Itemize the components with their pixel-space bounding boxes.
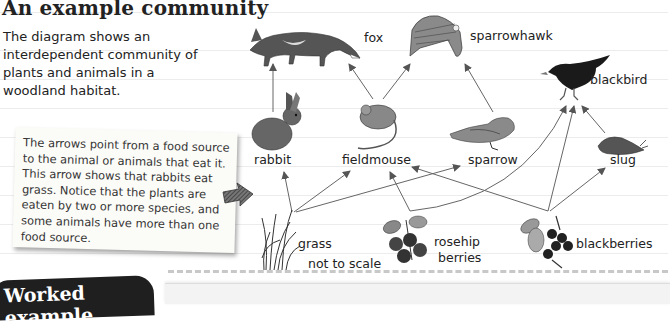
sparrowhawk-illustration [410, 16, 462, 57]
label-rabbit: rabbit [254, 152, 291, 167]
arrow-blackberries-slug [550, 168, 605, 211]
label-grass: grass [298, 236, 332, 251]
label-rosehip: rosehip [434, 234, 480, 249]
arrow-fieldmouse-sparrowhawk [383, 64, 410, 99]
fieldmouse-illustration [358, 105, 396, 149]
fox-illustration [250, 28, 360, 66]
section-divider [168, 270, 668, 273]
blackberries-illustration [518, 216, 573, 268]
grass-illustration [262, 210, 300, 270]
arrow-grass-sparrow [296, 166, 460, 212]
arrow-grass-fieldmouse [294, 171, 350, 212]
label-fieldmouse: fieldmouse [342, 152, 411, 167]
next-section-panel [165, 283, 670, 304]
worked-example-tab: Worked example [0, 275, 155, 321]
label-blackbird: blackbird [590, 72, 647, 87]
worked-example-heading: Worked example [3, 279, 154, 325]
label-blackberries: blackberries [576, 236, 653, 251]
rabbit-illustration [252, 92, 301, 150]
sparrow-illustration [450, 118, 514, 150]
arrow-rosehip-fieldmouse [390, 172, 410, 211]
arrow-slug-blackbird [582, 106, 605, 133]
label-berries: berries [438, 250, 481, 265]
arrow-grass-rabbit [284, 172, 292, 212]
label-sparrow: sparrow [468, 152, 518, 167]
label-slug: slug [610, 152, 636, 167]
arrow-fieldmouse-fox [349, 64, 373, 99]
food-web-arrows [273, 64, 605, 212]
label-fox: fox [364, 30, 383, 45]
food-web-diagram [0, 0, 668, 280]
rosehip-berries-illustration [381, 216, 427, 263]
arrow-sparrow-sparrowhawk [465, 64, 493, 112]
arrow-blackberries-fieldmouse [412, 167, 548, 211]
not-to-scale-label: not to scale [308, 256, 381, 271]
label-sparrowhawk: sparrowhawk [470, 28, 553, 43]
